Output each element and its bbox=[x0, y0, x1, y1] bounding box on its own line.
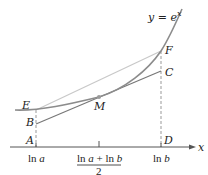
tick-label-mid-numerator: ln a + ln b bbox=[77, 152, 123, 164]
x-axis-arrow-icon bbox=[189, 145, 196, 150]
label-c: C bbox=[165, 66, 174, 79]
label-a: A bbox=[25, 134, 34, 147]
tick-label-ln-b: ln b bbox=[153, 152, 170, 164]
point-m-marker bbox=[97, 95, 101, 99]
label-d: D bbox=[163, 134, 173, 147]
tick-label-mid-denominator: 2 bbox=[96, 165, 102, 175]
label-e: E bbox=[21, 99, 30, 112]
tick-label-ln-a: ln a bbox=[28, 152, 45, 164]
label-m: M bbox=[93, 100, 106, 113]
x-axis-label: x bbox=[198, 141, 205, 154]
curve-label: y = ex bbox=[147, 9, 182, 24]
exponential-curve bbox=[15, 9, 182, 110]
label-f: F bbox=[164, 44, 173, 57]
exponential-curve-diagram: y = ex F C E B M A D x ln a ln b ln a + … bbox=[0, 0, 208, 175]
label-b: B bbox=[25, 116, 34, 129]
